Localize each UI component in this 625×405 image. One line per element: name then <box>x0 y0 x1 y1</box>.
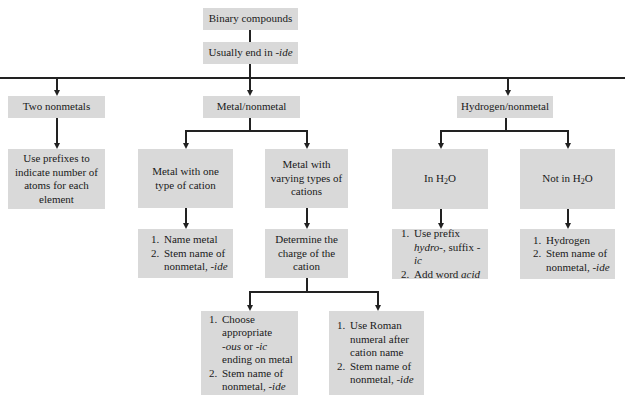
connector <box>185 130 307 132</box>
connector <box>249 77 251 91</box>
step-list: Name metal Stem name of nonmetal, -ide <box>146 233 233 274</box>
hydrogen-nonmetal-box: Hydrogen/nonmetal <box>457 96 553 118</box>
connector <box>185 130 187 143</box>
connector <box>505 118 507 130</box>
box-label: Metal with varying types of cations <box>269 158 344 199</box>
connector <box>567 130 569 143</box>
connector <box>440 130 568 132</box>
box-label: Usually end in -ide <box>208 46 292 60</box>
binary-compounds-box: Binary compounds <box>203 8 298 30</box>
connector <box>306 208 308 223</box>
step: Hydrogen <box>544 234 615 248</box>
connector <box>377 291 379 305</box>
step: Stem name of nonmetal, -ide <box>348 360 424 387</box>
connector <box>306 130 308 143</box>
connector <box>440 209 442 223</box>
connector <box>249 118 251 130</box>
hydrogen-stem-box: Hydrogen Stem name of nonmetal, -ide <box>520 229 615 279</box>
step: Use prefixhydro-, suffix -ic <box>412 227 488 268</box>
box-label: Binary compounds <box>209 12 292 26</box>
use-prefixes-box: Use prefixes to indicate number of atoms… <box>8 149 105 209</box>
connector <box>249 291 251 305</box>
not-in-water-box: Not in H2O <box>520 149 615 209</box>
step-list: Use Roman numeral after cation name Stem… <box>332 319 424 387</box>
roman-numeral-box: Use Roman numeral after cation name Stem… <box>329 311 424 395</box>
determine-charge-box: Determine the charge of the cation <box>265 229 348 278</box>
connector <box>440 130 442 143</box>
box-label: Two nonmetals <box>23 100 90 114</box>
step-list: Hydrogen Stem name of nonmetal, -ide <box>528 234 615 275</box>
step: Name metal <box>162 233 233 247</box>
connector <box>56 77 58 91</box>
ous-ic-box: Choose appropriate-ous or -icending on m… <box>201 311 298 395</box>
metal-one-type-box: Metal with one type of cation <box>138 149 233 208</box>
hydro-acid-box: Use prefixhydro-, suffix -ic Add word ac… <box>392 229 488 279</box>
step-list: Choose appropriate-ous or -icending on m… <box>204 313 298 394</box>
metal-nonmetal-box: Metal/nonmetal <box>203 96 300 118</box>
connector <box>249 30 251 42</box>
box-label: Metal/nonmetal <box>217 100 287 114</box>
box-label: Use prefixes to indicate number of atoms… <box>14 152 99 206</box>
metal-varying-box: Metal with varying types of cations <box>265 149 348 208</box>
name-metal-box: Name metal Stem name of nonmetal, -ide <box>138 229 233 278</box>
step: Stem name of nonmetal, -ide <box>220 367 298 394</box>
box-label: Metal with one type of cation <box>152 165 219 192</box>
connector <box>56 118 58 143</box>
box-label: Not in H2O <box>542 172 592 186</box>
in-water-box: In H2O <box>392 149 488 209</box>
box-label: Hydrogen/nonmetal <box>461 100 549 114</box>
usually-ide-box: Usually end in -ide <box>203 42 298 64</box>
connector <box>507 77 509 91</box>
connector <box>185 208 187 223</box>
step-list: Use prefixhydro-, suffix -ic Add word ac… <box>396 227 488 281</box>
step: Choose appropriate-ous or -icending on m… <box>220 313 298 367</box>
connector <box>249 291 378 293</box>
connector <box>567 209 569 223</box>
step: Add word acid <box>412 268 488 282</box>
step: Use Roman numeral after cation name <box>348 319 424 360</box>
two-nonmetals-box: Two nonmetals <box>8 96 105 118</box>
step: Stem name of nonmetal, -ide <box>162 247 233 274</box>
step: Stem name of nonmetal, -ide <box>544 247 615 274</box>
connector <box>306 278 308 292</box>
connector <box>0 77 625 79</box>
box-label: Determine the charge of the cation <box>271 233 342 274</box>
box-label: In H2O <box>424 172 456 186</box>
connector <box>249 64 251 77</box>
